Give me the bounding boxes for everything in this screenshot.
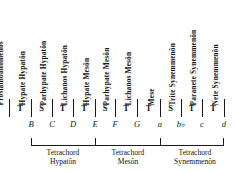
note-name-label: Parhypate Mesôn bbox=[103, 48, 110, 106]
pitch-letter: E bbox=[85, 120, 105, 129]
pitch-letter: a bbox=[150, 120, 170, 129]
interval-label: S bbox=[160, 104, 181, 113]
pitch-letter: G bbox=[127, 120, 147, 129]
interval-label: T bbox=[181, 104, 202, 113]
tetrachord-label: Tetrachord Hypatôn bbox=[28, 149, 98, 166]
pitch-letter: b♭ bbox=[171, 120, 191, 129]
tetrachord-bracket-tick bbox=[95, 138, 96, 146]
tetrachord-label: Tetrachord Mesôn bbox=[94, 149, 162, 166]
note-name-label: Hypate Mesôn bbox=[83, 58, 90, 106]
tetrachord-label: Tetrachord Synemmenôn bbox=[156, 149, 234, 166]
note-name-label: Nete Synemmenôn bbox=[212, 44, 219, 105]
pitch-letter: c bbox=[192, 120, 212, 129]
interval-label: S bbox=[31, 104, 52, 113]
interval-label: T bbox=[137, 104, 160, 113]
note-name-label: Trite Synemmenôn bbox=[169, 43, 176, 105]
interval-label: T bbox=[9, 104, 31, 113]
pitch-tick bbox=[224, 99, 225, 117]
pitch-letter: C bbox=[42, 120, 62, 129]
interval-label: T bbox=[115, 104, 137, 113]
scale-diagram: Proslambanomenos Hypate Hypatôn Parhypat… bbox=[0, 0, 237, 172]
interval-label: S bbox=[95, 104, 115, 113]
tetrachord-label-line2: Hypatôn bbox=[28, 158, 98, 167]
note-name-label: Hypate Hypatôn bbox=[19, 51, 26, 105]
note-name-label: Lichanos Hypatôn bbox=[61, 45, 68, 105]
note-name-label: Lichanos Mesôn bbox=[125, 52, 132, 106]
tetrachord-label-line2: Mesôn bbox=[94, 158, 162, 167]
pitch-letter: D bbox=[63, 120, 83, 129]
interval-label: T bbox=[202, 104, 224, 113]
tetrachord-bracket-rule bbox=[31, 145, 224, 146]
pitch-letter: F bbox=[105, 120, 125, 129]
pitch-letter: d bbox=[214, 120, 234, 129]
tetrachord-bracket-tick bbox=[160, 138, 161, 146]
interval-label: T bbox=[73, 104, 95, 113]
interval-label: T bbox=[52, 104, 73, 113]
pitch-letter: B bbox=[21, 120, 41, 129]
tetrachord-bracket-tick bbox=[223, 138, 224, 146]
note-name-label: Proslambanomenos bbox=[0, 41, 4, 105]
note-name-label: Parhypate Hypatôn bbox=[40, 41, 47, 106]
tetrachord-label-line2: Synemmenôn bbox=[156, 158, 234, 167]
note-name-label: Paranete Synemmenôn bbox=[190, 30, 197, 106]
tetrachord-bracket-tick bbox=[31, 138, 32, 146]
